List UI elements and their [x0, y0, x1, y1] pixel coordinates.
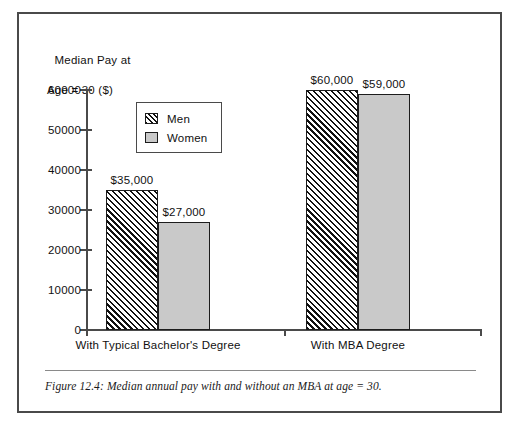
y-tick-label-50000: 50000: [27, 124, 81, 136]
legend-item-women[interactable]: Women: [145, 128, 221, 147]
bar-men-bachelors[interactable]: [106, 190, 158, 330]
legend-swatch-men-icon: [145, 113, 158, 124]
y-tick-label-60000: 60000: [27, 84, 81, 96]
legend-item-men[interactable]: Men: [145, 109, 221, 128]
figure-frame: Median Pay at Age = 30 ($) 0 10000 20000…: [17, 12, 502, 413]
figure-caption: Figure 12.4: Median annual pay with and …: [45, 380, 485, 392]
y-tick-mark-40000: [80, 169, 92, 171]
y-tick-label-40000: 40000: [27, 164, 81, 176]
y-tick-label-0: 0: [27, 324, 81, 336]
y-tick-mark-20000: [80, 249, 92, 251]
y-tick-mark-10000: [80, 289, 92, 291]
plot-area: 0 10000 20000 30000 40000 50000 60000 $3…: [19, 14, 504, 415]
caption-divider: [45, 370, 476, 371]
y-tick-20000: 20000: [19, 250, 81, 251]
x-tick-mark-right: [480, 329, 482, 336]
y-tick-mark-60000: [80, 89, 92, 91]
legend: Men Women: [136, 102, 222, 153]
bar-label-men-bachelors: $35,000: [106, 174, 158, 186]
x-category-label-bachelors: With Typical Bachelor's Degree: [68, 339, 248, 351]
y-tick-60000: 60000: [19, 90, 81, 91]
bar-men-mba[interactable]: [306, 90, 358, 330]
y-tick-label-20000: 20000: [27, 244, 81, 256]
legend-label-women: Women: [167, 132, 207, 144]
legend-label-men: Men: [167, 113, 190, 125]
y-tick-label-10000: 10000: [27, 284, 81, 296]
x-tick-mark-left: [86, 329, 88, 336]
y-tick-0: 0: [19, 330, 81, 331]
legend-swatch-women-icon: [145, 132, 158, 143]
y-tick-mark-30000: [80, 209, 92, 211]
x-tick-mark-middle: [284, 329, 286, 336]
bar-women-mba[interactable]: [358, 94, 410, 330]
y-tick-40000: 40000: [19, 170, 81, 171]
bar-label-women-bachelors: $27,000: [158, 206, 210, 218]
bar-women-bachelors[interactable]: [158, 222, 210, 330]
y-tick-label-30000: 30000: [27, 204, 81, 216]
y-tick-50000: 50000: [19, 130, 81, 131]
y-tick-mark-50000: [80, 129, 92, 131]
bar-label-women-mba: $59,000: [358, 78, 410, 90]
y-tick-10000: 10000: [19, 290, 81, 291]
y-tick-30000: 30000: [19, 210, 81, 211]
bar-label-men-mba: $60,000: [306, 74, 358, 86]
x-category-label-mba: With MBA Degree: [288, 339, 428, 351]
